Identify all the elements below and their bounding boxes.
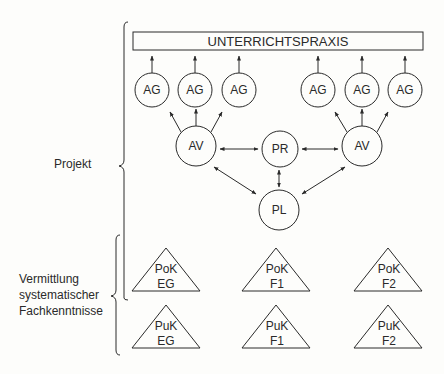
projekt-brace-end	[124, 298, 128, 300]
ag-label-2: AG	[186, 83, 203, 97]
puk-f1-top: PuK	[266, 319, 289, 333]
vermittlung-line-2: systematischer	[19, 287, 103, 303]
puk-eg-bottom: EG	[157, 334, 174, 348]
puk-eg-top: PuK	[155, 319, 178, 333]
av-label-right: AV	[354, 139, 369, 153]
puk-f1-bottom: F1	[270, 334, 284, 348]
vermittlung-brace	[111, 235, 120, 355]
ag-label-5: AG	[353, 83, 370, 97]
ag-label-4: AG	[309, 83, 326, 97]
projekt-label: Projekt	[54, 156, 91, 172]
pok-f2-bottom: F2	[382, 277, 396, 291]
vermittlung-line-1: Vermittlung	[19, 271, 103, 287]
puk-f2-bottom: F2	[382, 334, 396, 348]
vermittlung-label: Vermittlung systematischer Fachkenntniss…	[19, 271, 103, 319]
pr-label: PR	[272, 142, 289, 156]
pok-eg-bottom: EG	[157, 277, 174, 291]
puk-f2-top: PuK	[378, 319, 401, 333]
projekt-brace	[119, 22, 128, 298]
unterrichtspraxis-label: UNTERRICHTSPRAXIS	[208, 34, 349, 49]
ag-label-1: AG	[143, 83, 160, 97]
vermittlung-line-3: Fachkenntnisse	[19, 303, 103, 319]
ag-label-3: AG	[230, 83, 247, 97]
ag-to-box-arrows	[152, 56, 405, 73]
pok-f2-top: PoK	[378, 262, 401, 276]
ag-label-6: AG	[396, 83, 413, 97]
av-label-left: AV	[188, 139, 203, 153]
av-to-ag-arrows	[170, 109, 388, 132]
pok-f1-bottom: F1	[270, 277, 284, 291]
pok-f1-top: PoK	[266, 262, 289, 276]
pok-eg-top: PoK	[155, 262, 178, 276]
pl-label: PL	[272, 203, 287, 217]
